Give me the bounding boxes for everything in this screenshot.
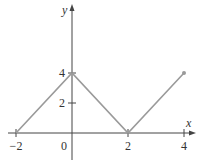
x-tick-label: 0 — [61, 139, 67, 153]
data-series — [16, 71, 186, 133]
axes — [8, 4, 196, 160]
tick-labels: xy−202424 — [10, 3, 192, 153]
x-axis-arrow-icon — [189, 131, 196, 136]
y-axis-label: y — [61, 3, 68, 17]
function-line — [16, 73, 184, 133]
x-axis-label: x — [185, 116, 192, 130]
x-tick-label: −2 — [10, 139, 23, 153]
y-tick-label: 2 — [59, 96, 65, 110]
y-axis-arrow-icon — [70, 4, 75, 11]
endpoint-dot-icon — [182, 71, 186, 75]
x-tick-label: 4 — [181, 139, 187, 153]
function-graph: xy−202424 — [0, 0, 201, 165]
x-tick-label: 2 — [125, 139, 131, 153]
y-tick-label: 4 — [59, 66, 65, 80]
